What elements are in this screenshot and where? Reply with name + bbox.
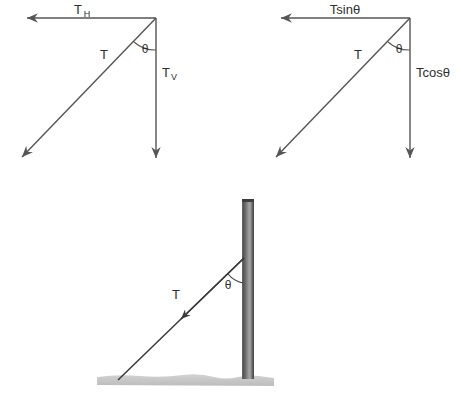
resultant-tension-label: T: [100, 47, 108, 62]
angle-theta-label: θ: [225, 278, 232, 292]
angle-theta-label: θ: [142, 42, 149, 56]
resultant-tension-label: T: [354, 47, 362, 62]
diagram-three: T θ: [97, 199, 274, 386]
vertical-component-label: T: [162, 65, 170, 80]
tension-label: T: [172, 287, 180, 302]
figure-canvas: T H T V T θ Tsinθ Tcosθ T θ: [0, 0, 461, 405]
pole-top-cap: [242, 199, 254, 202]
vertical-component-label: Tcosθ: [416, 65, 450, 80]
horizontal-component-label: Tsinθ: [330, 2, 360, 17]
diagram-one: T H T V T θ: [22, 2, 177, 158]
resultant-tension-vector: [22, 18, 156, 157]
angle-theta-label: θ: [396, 42, 403, 56]
horizontal-component-label: T: [74, 2, 82, 17]
diagram-two: Tsinθ Tcosθ T θ: [276, 2, 450, 158]
vertical-component-subscript: V: [171, 72, 177, 82]
physics-figure: T H T V T θ Tsinθ Tcosθ T θ: [0, 0, 461, 405]
resultant-tension-vector: [276, 18, 410, 157]
tension-direction-arrow: [181, 258, 244, 319]
horizontal-component-subscript: H: [84, 9, 91, 19]
vertical-pole: [242, 199, 254, 379]
